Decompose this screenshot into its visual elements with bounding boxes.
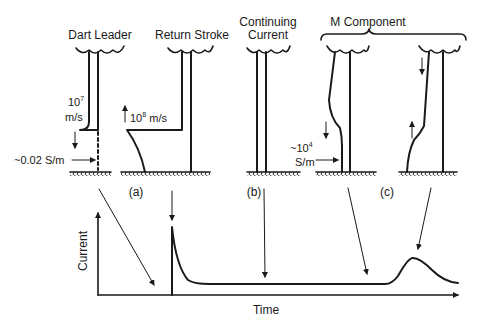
- ground-hatch: [247, 172, 300, 176]
- cloud-icon: [247, 46, 290, 53]
- lightning-diagram: Dart Leader 107 m/s ~0.02 S/m Return Str…: [0, 0, 481, 327]
- ground-hatch: [316, 172, 376, 176]
- m-component-conductivity: ~104: [290, 141, 313, 154]
- continuing-current-title-1: Continuing: [239, 15, 296, 29]
- subfigure-label-c: (c): [380, 185, 394, 199]
- y-axis-label: Current: [76, 230, 90, 271]
- ground-hatch: [70, 172, 111, 176]
- m-component-conductivity-unit: S/m: [295, 156, 315, 168]
- subfigure-label-b: (b): [247, 185, 262, 199]
- return-stroke-title: Return Stroke: [155, 28, 229, 42]
- dart-leader-panel: Dart Leader 107 m/s ~0.02 S/m: [14, 28, 132, 176]
- arrow-m-component-1: [348, 188, 367, 274]
- return-stroke-speed: 108 m/s: [130, 111, 167, 124]
- dart-leader-conductivity: ~0.02 S/m: [14, 154, 64, 166]
- brace: [321, 29, 466, 40]
- pointer-arrows: [99, 188, 431, 285]
- m-component-channel-2-left: [407, 52, 429, 172]
- subfigure-label-a: (a): [129, 185, 144, 199]
- dart-leader-speed: 107: [68, 95, 84, 108]
- ground-hatch: [399, 172, 457, 176]
- m-component-title: M Component: [330, 15, 406, 29]
- current-waveform: [172, 227, 458, 295]
- arrow-dart-leader: [99, 189, 154, 285]
- ground-hatch: [121, 172, 210, 176]
- arrow-m-component-2: [418, 188, 431, 249]
- m-component-panel: M Component ~104 S/m: [290, 15, 466, 176]
- arrow-continuing-current: [264, 189, 265, 277]
- continuing-current-title-2: Current: [248, 28, 289, 42]
- dart-leader-speed-unit: m/s: [65, 111, 83, 123]
- current-time-plot: Current Time: [76, 213, 458, 317]
- x-axis-label: Time: [253, 303, 280, 317]
- cloud-icon: [76, 46, 124, 53]
- cloud-icon: [327, 46, 369, 53]
- dart-leader-title: Dart Leader: [68, 28, 131, 42]
- m-component-channel-1-left: [329, 52, 342, 172]
- return-stroke-panel: Return Stroke 108 m/s: [121, 28, 229, 176]
- cloud-icon: [419, 46, 460, 53]
